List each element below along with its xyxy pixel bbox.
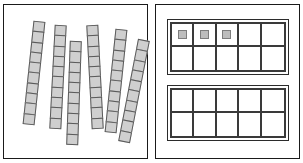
ten-frame-cell[interactable] bbox=[194, 90, 216, 113]
counter-square-icon bbox=[178, 30, 187, 39]
counter-square-icon bbox=[200, 30, 209, 39]
ten-frame-cell[interactable] bbox=[262, 24, 284, 47]
ten-frame-cell[interactable] bbox=[217, 24, 239, 47]
base-ten-rod[interactable] bbox=[23, 21, 46, 126]
counter-square-icon bbox=[222, 30, 231, 39]
ten-frame-cell[interactable] bbox=[172, 47, 194, 70]
rod-unit-square bbox=[66, 133, 78, 145]
ten-frame-cell[interactable] bbox=[239, 113, 261, 136]
ten-frame-grid bbox=[170, 22, 286, 72]
rod-unit-square bbox=[23, 113, 36, 125]
ten-frame-cell[interactable] bbox=[239, 24, 261, 47]
base-ten-rods-panel bbox=[3, 4, 148, 159]
base-ten-rod[interactable] bbox=[86, 25, 103, 129]
worksheet-canvas bbox=[0, 0, 303, 163]
rod-unit-square bbox=[105, 121, 118, 133]
rod-unit-square bbox=[118, 130, 132, 143]
ten-frame-cell[interactable] bbox=[172, 90, 194, 113]
ten-frame-cell[interactable] bbox=[262, 113, 284, 136]
ten-frames-panel bbox=[155, 4, 300, 159]
ten-frame-cell[interactable] bbox=[239, 47, 261, 70]
ten-frame-cell[interactable] bbox=[172, 113, 194, 136]
ten-frame-cell[interactable] bbox=[194, 47, 216, 70]
base-ten-rod[interactable] bbox=[66, 41, 82, 145]
ten-frame-cell[interactable] bbox=[262, 47, 284, 70]
ten-frame-bottom[interactable] bbox=[167, 85, 289, 141]
ten-frame-cell[interactable] bbox=[217, 90, 239, 113]
ten-frame-cell[interactable] bbox=[194, 113, 216, 136]
ten-frame-top[interactable] bbox=[167, 19, 289, 75]
base-ten-rod[interactable] bbox=[49, 25, 66, 129]
ten-frame-cell[interactable] bbox=[217, 113, 239, 136]
ten-frame-cell[interactable] bbox=[239, 90, 261, 113]
ten-frame-cell[interactable] bbox=[262, 90, 284, 113]
ten-frame-cell[interactable] bbox=[217, 47, 239, 70]
rod-unit-square bbox=[49, 117, 62, 129]
rod-unit-square bbox=[91, 117, 104, 129]
ten-frame-cell[interactable] bbox=[194, 24, 216, 47]
ten-frame-cell[interactable] bbox=[172, 24, 194, 47]
ten-frame-grid bbox=[170, 88, 286, 138]
